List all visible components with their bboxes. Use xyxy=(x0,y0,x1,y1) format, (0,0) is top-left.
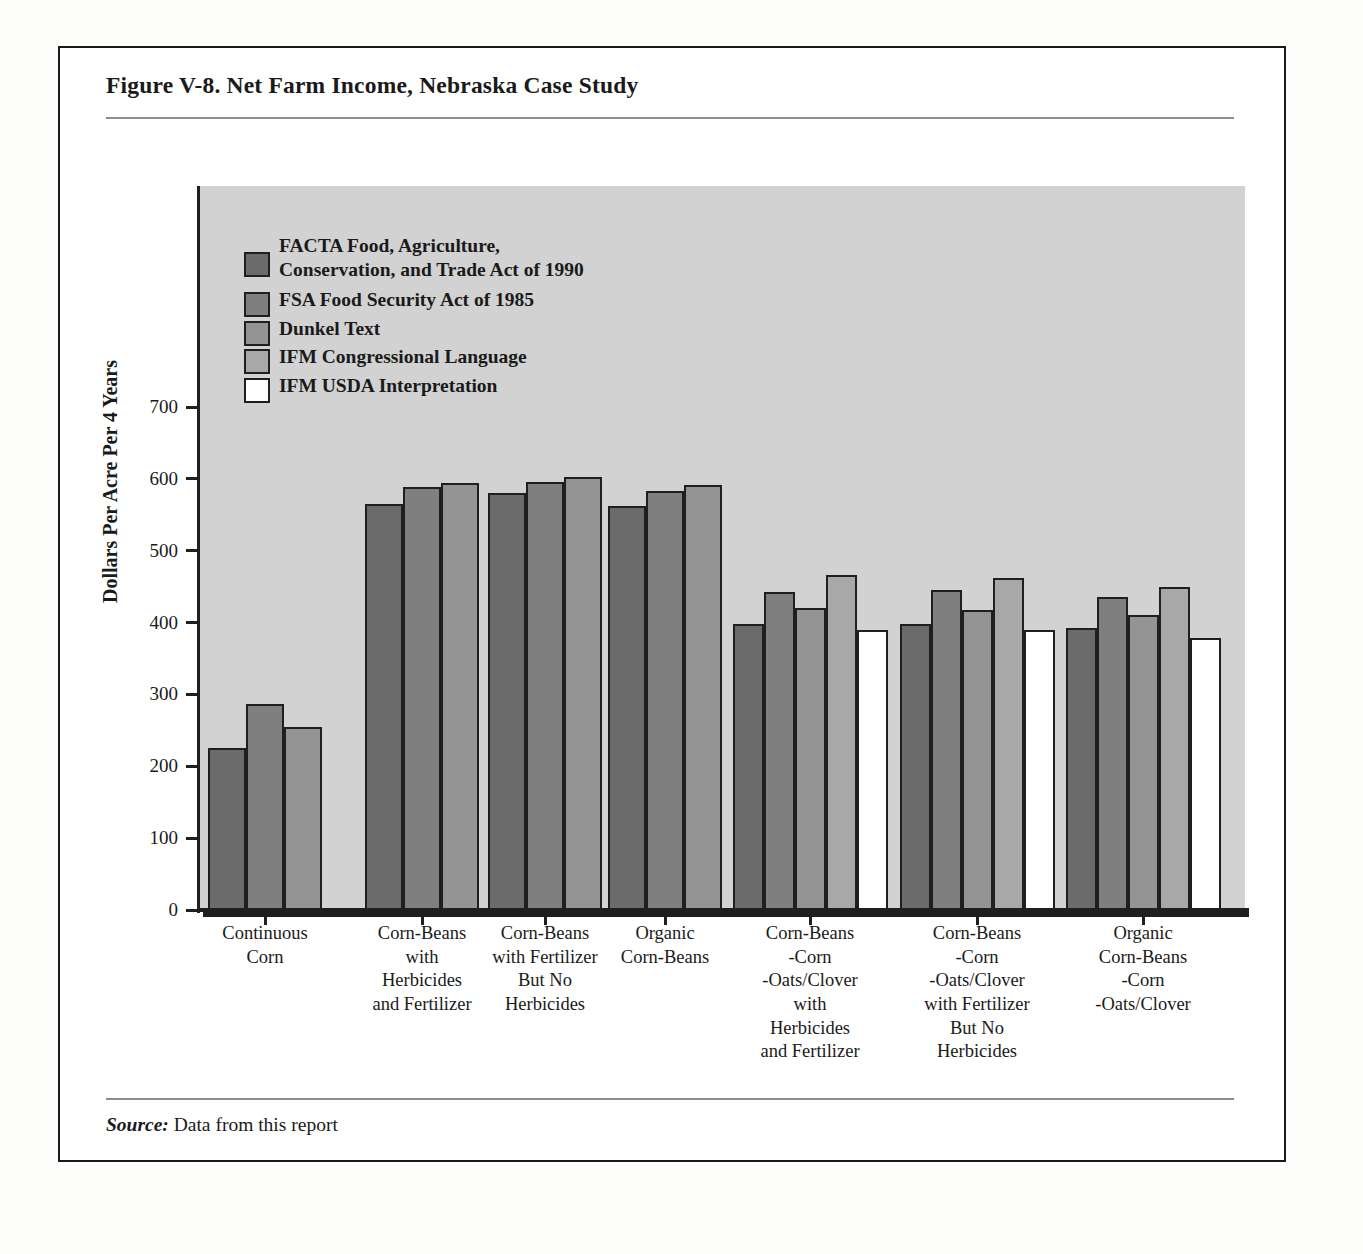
bar xyxy=(441,483,479,910)
legend-label-line: Dunkel Text xyxy=(279,318,380,340)
legend-item-label: IFM USDA Interpretation xyxy=(279,375,497,397)
bar xyxy=(246,704,284,910)
bar xyxy=(208,748,246,910)
bar xyxy=(931,590,962,910)
y-tick-label-text: 0 xyxy=(118,899,178,921)
x-axis-label-line: -Corn xyxy=(722,946,898,970)
legend-label-line: FACTA Food, Agriculture, xyxy=(279,234,584,258)
x-axis-label-line: -Corn xyxy=(1055,969,1231,993)
bar xyxy=(403,487,441,910)
x-axis-label-line: Corn-Beans xyxy=(1055,946,1231,970)
legend-swatch xyxy=(244,321,270,346)
y-tick xyxy=(186,837,199,840)
bar xyxy=(733,624,764,910)
x-axis-label: OrganicCorn-Beans-Corn-Oats/Clover xyxy=(1055,922,1231,1017)
x-axis-label-line: Herbicides xyxy=(722,1017,898,1041)
legend-swatch xyxy=(244,378,270,403)
bar xyxy=(900,624,931,910)
legend-label-line: FSA Food Security Act of 1985 xyxy=(279,289,534,311)
bar xyxy=(488,493,526,910)
x-axis-label-line: Continuous xyxy=(177,922,353,946)
bar xyxy=(284,727,322,910)
legend-swatch xyxy=(244,252,270,277)
x-axis-label-line: But No xyxy=(457,969,633,993)
y-tick-label-text: 400 xyxy=(118,612,178,634)
y-tick-label-text: 100 xyxy=(118,827,178,849)
y-tick xyxy=(186,406,199,409)
legend-item-label: FACTA Food, Agriculture,Conservation, an… xyxy=(279,234,584,282)
bar xyxy=(1128,615,1159,910)
x-axis-label-line: -Oats/Clover xyxy=(889,969,1065,993)
x-axis-label-line: Corn-Beans xyxy=(889,922,1065,946)
bar xyxy=(608,506,646,910)
title-divider xyxy=(106,117,1234,119)
bar xyxy=(526,482,564,910)
bar xyxy=(993,578,1024,910)
y-tick-label-text: 700 xyxy=(118,396,178,418)
bar xyxy=(764,592,795,910)
bar xyxy=(365,504,403,910)
y-tick xyxy=(186,549,199,552)
bar xyxy=(857,630,888,910)
y-tick-label-text: 200 xyxy=(118,755,178,777)
x-axis-label: ContinuousCorn xyxy=(177,922,353,969)
source-note: Source: Data from this report xyxy=(106,1114,338,1136)
x-axis-label-line: Corn xyxy=(177,946,353,970)
x-axis-label-line: But No xyxy=(889,1017,1065,1041)
figure-page: Figure V-8. Net Farm Income, Nebraska Ca… xyxy=(0,0,1363,1254)
x-axis-label-line: with Fertilizer xyxy=(889,993,1065,1017)
bar xyxy=(1097,597,1128,910)
x-axis-label-line: -Oats/Clover xyxy=(722,969,898,993)
bar xyxy=(1024,630,1055,910)
bar xyxy=(826,575,857,910)
source-divider xyxy=(106,1098,1234,1100)
x-axis-label-line: -Corn xyxy=(889,946,1065,970)
bar xyxy=(1159,587,1190,910)
y-tick-label-text: 600 xyxy=(118,468,178,490)
bar xyxy=(1190,638,1221,910)
legend-swatch xyxy=(244,292,270,317)
legend-item-label: FSA Food Security Act of 1985 xyxy=(279,289,534,311)
x-axis-label-line: -Oats/Clover xyxy=(1055,993,1231,1017)
y-tick xyxy=(186,477,199,480)
y-tick-label-text: 300 xyxy=(118,683,178,705)
x-axis-label-line: Corn-Beans xyxy=(722,922,898,946)
bar xyxy=(962,610,993,910)
source-text: Data from this report xyxy=(169,1114,338,1135)
legend-item-label: Dunkel Text xyxy=(279,318,380,340)
bar xyxy=(795,608,826,910)
legend-label-line: IFM Congressional Language xyxy=(279,346,527,368)
bar xyxy=(1066,628,1097,910)
y-tick xyxy=(186,621,199,624)
legend-item-label: IFM Congressional Language xyxy=(279,346,527,368)
x-axis-label-line: Herbicides xyxy=(889,1040,1065,1064)
y-tick xyxy=(186,693,199,696)
y-tick xyxy=(186,909,199,912)
page-title: Figure V-8. Net Farm Income, Nebraska Ca… xyxy=(106,72,638,99)
bar xyxy=(684,485,722,910)
legend-label-line: Conservation, and Trade Act of 1990 xyxy=(279,258,584,282)
bar xyxy=(646,491,684,910)
x-axis-label: Corn-Beans-Corn-Oats/CloverwithHerbicide… xyxy=(722,922,898,1064)
x-axis-label-line: and Fertilizer xyxy=(722,1040,898,1064)
y-tick-label-text: 500 xyxy=(118,540,178,562)
legend-swatch xyxy=(244,349,270,374)
source-label: Source: xyxy=(106,1114,169,1135)
bar xyxy=(564,477,602,910)
x-axis-label-line: Organic xyxy=(1055,922,1231,946)
y-tick xyxy=(186,765,199,768)
x-axis-label-line: Herbicides xyxy=(457,993,633,1017)
x-axis-label: Corn-Beans-Corn-Oats/Cloverwith Fertiliz… xyxy=(889,922,1065,1064)
x-axis-label-line: with xyxy=(722,993,898,1017)
legend-label-line: IFM USDA Interpretation xyxy=(279,375,497,397)
